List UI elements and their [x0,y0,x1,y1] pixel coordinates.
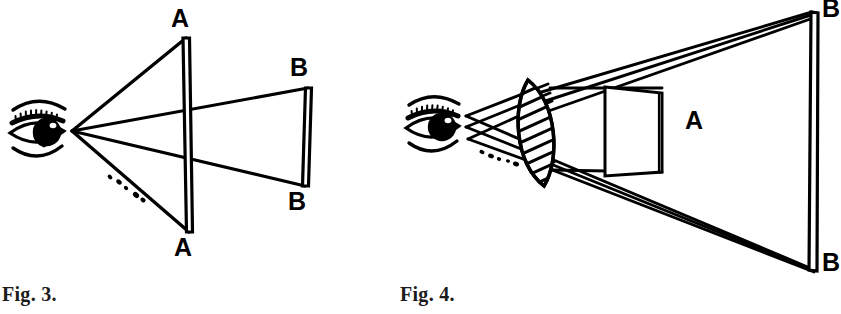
object-a [605,87,662,176]
label-a: A [685,108,703,133]
figure-4-caption: Fig. 4. [400,283,455,306]
plane-a [183,38,193,232]
plane-b [303,88,312,186]
label-b-top: B [822,0,840,21]
lens-icon [500,72,570,224]
figure-3-drawing [0,0,400,314]
figure-4-panel: A B B Fig. 4. [400,0,841,314]
figure-3-panel: A A B B Fig. 3. [0,0,400,314]
label-a-bottom: A [174,235,192,260]
figure-3-caption: Fig. 3. [2,283,57,306]
label-b-bottom: B [288,189,306,214]
plane-b [809,12,818,271]
label-b-top: B [290,55,308,80]
figure-page: A A B B Fig. 3. [0,0,841,314]
label-a-top: A [171,6,189,31]
eye-icon [406,97,459,151]
label-b-bottom: B [822,250,840,275]
ray-upper [72,38,186,131]
figure-4-drawing [400,0,841,314]
eye-icon [10,101,65,156]
